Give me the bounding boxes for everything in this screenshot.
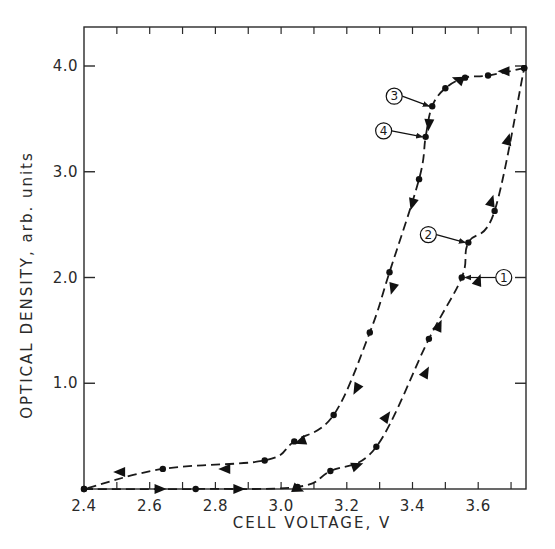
direction-arrow-icon	[472, 272, 486, 287]
direction-arrow-icon	[379, 408, 394, 424]
direction-arrow-icon	[432, 318, 446, 333]
x-axis-label: CELL VOLTAGE, V	[233, 514, 391, 532]
callout-label: 2	[425, 228, 433, 242]
data-point	[416, 176, 422, 182]
direction-arrow-icon	[349, 382, 363, 397]
direction-arrow-icon	[386, 282, 399, 296]
data-point	[465, 239, 471, 245]
hysteresis-chart: 2.42.62.83.03.23.43.61.02.03.04.0 1234 C…	[0, 0, 555, 549]
data-point	[426, 336, 432, 342]
direction-arrow-icon	[497, 66, 509, 76]
data-point	[367, 329, 373, 335]
callout-label: 3	[390, 89, 398, 103]
callout-3: 3	[386, 88, 429, 106]
x-tick-label: 3.0	[268, 497, 293, 515]
data-point	[81, 486, 87, 492]
data-point	[459, 274, 465, 280]
callout-1: 1	[465, 270, 512, 286]
y-tick-label: 1.0	[53, 374, 78, 392]
data-point	[261, 457, 267, 463]
plot-frame	[84, 27, 526, 489]
data-point	[429, 103, 435, 109]
direction-arrow-icon	[450, 73, 465, 87]
x-tick-label: 3.2	[334, 497, 359, 515]
callout-2: 2	[420, 227, 465, 243]
y-tick-label: 3.0	[53, 163, 78, 181]
data-point	[160, 466, 166, 472]
axis-ticks: 2.42.62.83.03.23.43.61.02.03.04.0	[53, 27, 526, 515]
y-tick-label: 2.0	[53, 269, 78, 287]
data-point	[373, 444, 379, 450]
x-tick-label: 2.4	[71, 497, 96, 515]
direction-arrow-icon	[406, 197, 419, 211]
direction-arrow-icon	[419, 364, 433, 379]
direction-arrow-icon	[155, 484, 167, 494]
data-point	[491, 208, 497, 214]
callout-annotations: 1234	[376, 88, 512, 285]
discharging-curve	[84, 68, 524, 489]
x-tick-label: 2.8	[203, 497, 228, 515]
data-point	[192, 486, 198, 492]
data-point	[327, 468, 333, 474]
direction-arrow-icon	[218, 464, 230, 474]
data-point	[485, 72, 491, 78]
y-axis-label: OPTICAL DENSITY, arb. units	[18, 151, 36, 419]
data-point	[386, 269, 392, 275]
callout-label: 1	[500, 271, 508, 285]
data-point	[422, 134, 428, 140]
data-point	[521, 65, 527, 71]
x-tick-label: 3.4	[400, 497, 425, 515]
x-tick-label: 3.6	[466, 497, 491, 515]
y-tick-label: 4.0	[53, 57, 78, 75]
direction-arrow-icon	[113, 467, 125, 477]
charging-curve	[84, 68, 524, 489]
data-point	[442, 85, 448, 91]
direction-arrow-icon	[423, 119, 434, 132]
direction-arrow-icon	[233, 484, 245, 494]
data-point	[330, 412, 336, 418]
plot-border	[84, 27, 526, 489]
x-tick-label: 2.6	[137, 497, 162, 515]
callout-4: 4	[376, 123, 423, 139]
callout-label: 4	[380, 124, 388, 138]
data-series	[81, 65, 528, 492]
